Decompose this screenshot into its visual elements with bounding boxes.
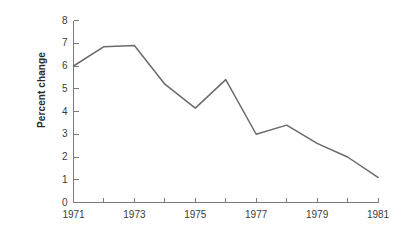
y-tick-label: 7 xyxy=(46,37,68,48)
y-tick-label: 4 xyxy=(46,106,68,117)
y-tick-label: 3 xyxy=(46,128,68,139)
x-tick-label: 1977 xyxy=(236,209,276,220)
line-chart: Percent change 012345678 197119731975197… xyxy=(0,0,398,235)
y-tick-label: 0 xyxy=(46,197,68,208)
x-tick-label: 1973 xyxy=(114,209,154,220)
y-tick-label: 8 xyxy=(46,15,68,26)
x-tick-label: 1971 xyxy=(54,209,94,220)
x-tick-label: 1975 xyxy=(175,209,215,220)
y-tick-label: 2 xyxy=(46,151,68,162)
x-tick-label: 1981 xyxy=(358,209,398,220)
chart-data-line xyxy=(74,46,379,178)
chart-tick-marks xyxy=(74,21,379,203)
y-tick-label: 6 xyxy=(46,60,68,71)
x-tick-label: 1979 xyxy=(297,209,337,220)
chart-axes xyxy=(74,21,379,203)
y-tick-label: 5 xyxy=(46,83,68,94)
y-tick-label: 1 xyxy=(46,174,68,185)
